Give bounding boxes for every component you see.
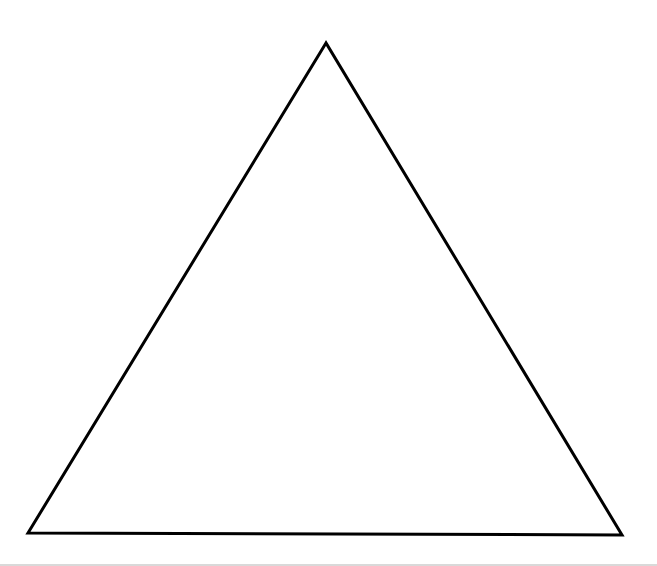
triangle-outline — [28, 43, 622, 535]
triangle-figure — [0, 0, 657, 566]
diagram-canvas — [0, 0, 657, 566]
